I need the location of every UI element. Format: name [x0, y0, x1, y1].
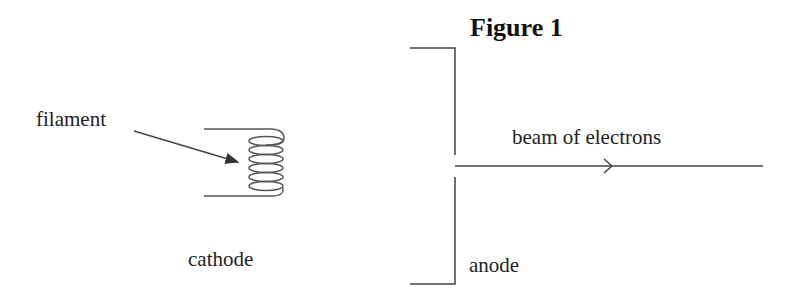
- figure-title: Figure 1: [470, 15, 563, 41]
- anode-label: anode: [469, 255, 519, 276]
- cathode-label: cathode: [188, 249, 253, 270]
- diagram-drawing: [0, 0, 800, 307]
- figure-1-diagram: Figure 1 filament cathode anode beam of …: [0, 0, 800, 307]
- anode-plate: [410, 48, 455, 284]
- filament-label: filament: [36, 109, 106, 130]
- filament-coil-icon: [204, 129, 284, 196]
- beam-of-electrons-label: beam of electrons: [512, 127, 661, 148]
- electron-beam-line: [455, 159, 763, 173]
- filament-pointer-arrow: [134, 131, 238, 162]
